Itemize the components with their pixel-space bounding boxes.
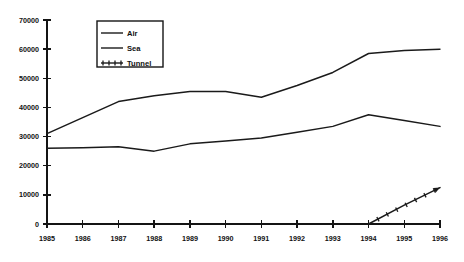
y-tick-label: 40000 bbox=[19, 103, 39, 112]
x-tick-label: 1988 bbox=[146, 234, 162, 243]
chart-canvas: 010000200003000040000500006000070000 198… bbox=[0, 0, 464, 262]
x-tick-label: 1992 bbox=[289, 234, 305, 243]
series-group bbox=[47, 49, 440, 224]
y-tick-label: 20000 bbox=[19, 161, 39, 170]
chart-legend: AirSeaTunnel bbox=[97, 21, 163, 68]
series-line-tunnel bbox=[369, 188, 440, 224]
x-tick-label: 1990 bbox=[218, 234, 234, 243]
y-tick-label: 10000 bbox=[19, 190, 39, 199]
y-tick-label: 60000 bbox=[19, 45, 39, 54]
x-tick-label: 1996 bbox=[432, 234, 448, 243]
x-axis-tick-labels: 1985198619871988198919901991199219931994… bbox=[39, 234, 448, 243]
y-axis-tick-labels: 010000200003000040000500006000070000 bbox=[19, 16, 39, 229]
x-tick-label: 1994 bbox=[361, 234, 377, 243]
x-tick-label: 1985 bbox=[39, 234, 55, 243]
y-tick-label: 70000 bbox=[19, 16, 39, 25]
legend-label-air: Air bbox=[127, 29, 138, 38]
y-tick-label: 30000 bbox=[19, 132, 39, 141]
legend-label-tunnel: Tunnel bbox=[127, 59, 151, 68]
x-tick-label: 1993 bbox=[325, 234, 341, 243]
line-chart: 010000200003000040000500006000070000 198… bbox=[0, 0, 464, 262]
x-tick-label: 1986 bbox=[75, 234, 91, 243]
x-tick-label: 1995 bbox=[396, 234, 412, 243]
legend-label-sea: Sea bbox=[127, 44, 141, 53]
x-tick-label: 1991 bbox=[253, 234, 269, 243]
y-tick-label: 0 bbox=[35, 220, 39, 229]
series-line-sea bbox=[47, 115, 440, 151]
x-tick-label: 1987 bbox=[110, 234, 126, 243]
y-tick-label: 50000 bbox=[19, 74, 39, 83]
x-tick-label: 1989 bbox=[182, 234, 198, 243]
